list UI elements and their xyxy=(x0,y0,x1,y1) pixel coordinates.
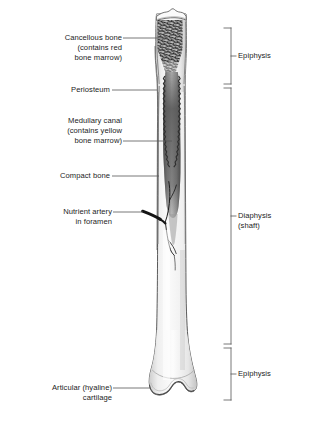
bone-anatomy-diagram: Cancellous bone (contains red bone marro… xyxy=(0,0,310,422)
label-epiphysis-proximal: Epiphysis xyxy=(238,51,308,61)
label-nutrient-artery: Nutrient artery in foramen xyxy=(14,207,112,227)
label-periosteum: Periosteum xyxy=(14,85,110,95)
label-medullary-canal: Medullary canal (contains yellow bone ma… xyxy=(14,116,122,147)
bracket-diaphysis xyxy=(224,88,236,344)
label-compact-bone: Compact bone xyxy=(14,171,110,181)
bracket-epiphysis-proximal xyxy=(224,28,236,84)
label-cancellous-bone: Cancellous bone (contains red bone marro… xyxy=(14,33,122,64)
bone-body xyxy=(143,9,197,395)
region-brackets xyxy=(224,28,236,400)
label-diaphysis: Diaphysis (shaft) xyxy=(238,211,308,231)
label-epiphysis-distal: Epiphysis xyxy=(238,369,308,379)
label-articular-cartilage: Articular (hyaline) cartilage xyxy=(10,383,112,403)
bracket-epiphysis-distal xyxy=(224,348,236,400)
